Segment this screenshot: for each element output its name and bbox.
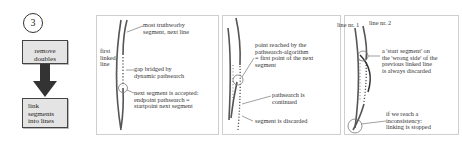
first-linked-line-label: first linked line: [100, 48, 116, 68]
inconsistency-label: if we reach a inconsistency: linking is …: [386, 111, 431, 131]
label-line: segment is discarded: [255, 118, 307, 125]
segment-discarded-label: segment is discarded: [255, 118, 307, 125]
step-number-circle: 3: [23, 13, 43, 33]
gap-bridged-label: gap bridged by dynamic pathsearch: [134, 66, 184, 79]
pathsearch-continued-label: pathsearch is continued: [272, 92, 305, 105]
link-segments-box: link segments into lines: [22, 98, 68, 128]
start-segment-label: a 'start segment' on the 'wrong side' of…: [382, 48, 437, 74]
label-line: segment: [255, 62, 313, 69]
trustworthy-segment-label: most truthworby segment, next line: [143, 22, 189, 35]
label-line: segment, next line: [143, 29, 189, 36]
line-nr-1-label: line nr. 1: [337, 22, 359, 29]
label-line: is always discarded: [382, 68, 437, 75]
label-line: continued: [272, 99, 305, 106]
label-line: startpoint next segment: [134, 103, 199, 110]
label-line: line: [100, 61, 116, 68]
point-reached-label: point reached by the pathsearch-algorith…: [255, 42, 313, 68]
box2-line: into lines: [28, 118, 67, 126]
label-line: dynamic pathsearch: [134, 73, 184, 80]
next-segment-accepted-label: next segment is accepted: endpoint paths…: [134, 90, 199, 110]
line-nr-2-label: line nr. 2: [369, 20, 391, 27]
remove-doubles-box: remove doubles: [22, 40, 68, 64]
label-line: linking is stopped: [386, 124, 431, 131]
